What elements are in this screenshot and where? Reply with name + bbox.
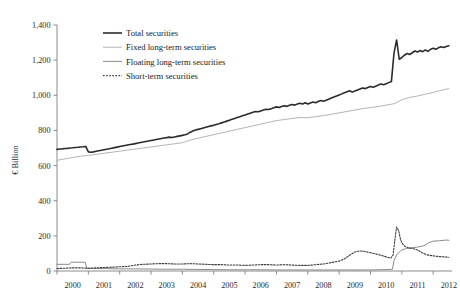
chart-background [0,0,460,302]
y-axis-tick-label: 1,400 [32,21,50,30]
line-chart: 02004006008001,0001,2001,400 20002001200… [0,0,460,302]
x-axis-tick-label: 2000 [64,281,80,290]
y-axis-tick-label: 1,000 [32,91,50,100]
y-axis-tick-label: 1,200 [32,56,50,65]
x-axis-tick-label: 2006 [253,281,269,290]
legend-label-3: Short-term securities [126,71,198,81]
x-axis-tick-label: 2008 [315,281,331,290]
legend-label-2: Floating long-term securities [126,57,226,67]
legend-label-0: Total securities [126,28,179,38]
y-axis-tick-label: 800 [38,126,50,135]
x-axis-tick-label: 2005 [221,281,237,290]
y-axis-title: € Billion [11,144,20,174]
y-axis-tick-label: 0 [46,267,50,276]
x-axis-tick-label: 2007 [284,281,300,290]
x-axis-tick-label: 2004 [190,281,206,290]
x-axis-tick-label: 2001 [96,281,112,290]
y-axis-tick-label: 400 [38,197,50,206]
y-axis-tick-label: 600 [38,162,50,171]
y-axis-tick-label: 200 [38,232,50,241]
x-axis-tick-label: 2011 [409,281,425,290]
x-axis-tick-label: 2009 [347,281,363,290]
legend-label-1: Fixed long-term securities [126,42,217,52]
x-axis-tick-label: 2002 [127,281,143,290]
x-axis-tick-label: 2003 [159,281,175,290]
x-axis-tick-label: 2010 [378,281,394,290]
x-axis-tick-label: 2012 [441,281,457,290]
chart-container: 02004006008001,0001,2001,400 20002001200… [0,0,460,302]
